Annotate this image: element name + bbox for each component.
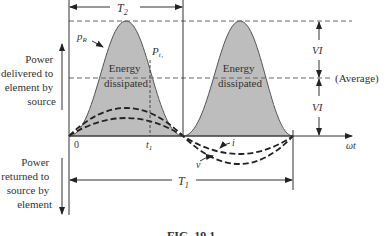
pR-pointer — [92, 41, 103, 47]
power-waveform-diagram: T2 T1 VI VI (Average) 0 t1 ωt pR Pt₁ i v… — [0, 0, 388, 236]
i-label: i — [232, 137, 235, 148]
power-returned-label: Power returned to source by element — [1, 156, 52, 210]
pt1-label: Pt₁ — [151, 45, 163, 59]
omega-t-label: ωt — [346, 140, 356, 151]
pR-label: pR — [76, 30, 88, 44]
average-label: (Average) — [335, 72, 379, 85]
vi-bottom-label: VI — [312, 101, 324, 113]
t2-label: T2 — [117, 1, 128, 17]
figure-caption: FIG. 19.1 — [167, 229, 215, 236]
t1-time-label: t1 — [146, 139, 152, 152]
vi-top-label: VI — [312, 44, 324, 56]
t1-period-label: T1 — [178, 174, 189, 190]
power-delivered-label: Power delivered to element by source — [1, 53, 56, 107]
v-pointer — [200, 156, 213, 161]
i-pointer — [220, 143, 230, 148]
origin-label: 0 — [74, 139, 79, 150]
